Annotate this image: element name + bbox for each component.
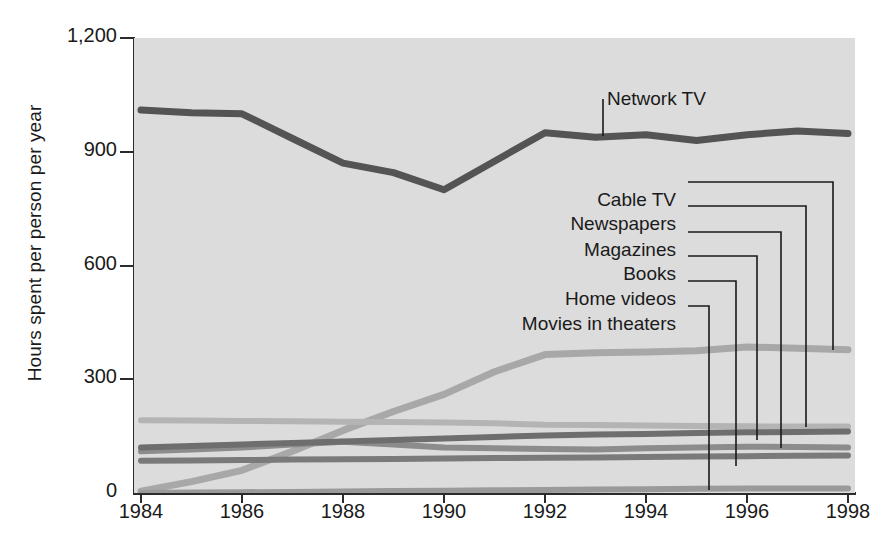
- x-tick-label-1998: 1998: [803, 500, 887, 523]
- y-tick-label-0: 0: [0, 479, 117, 502]
- series-line-network-tv: [141, 110, 848, 190]
- y-tick-label-1200: 1,200: [0, 24, 117, 47]
- annotation-label-network-tv: Network TV: [607, 88, 706, 110]
- line-chart: Hours spent per person per year 03006009…: [0, 0, 887, 541]
- annotation-label-books: Books: [623, 263, 676, 285]
- annotation-label-cable-tv: Cable TV: [597, 189, 676, 211]
- annotation-label-magazines: Magazines: [584, 239, 676, 261]
- x-tick-label-1994: 1994: [601, 500, 691, 523]
- series-line-newspapers: [141, 420, 848, 426]
- series-line-movies-in-theaters: [141, 488, 848, 493]
- x-tick-label-1986: 1986: [197, 500, 287, 523]
- x-tick-label-1990: 1990: [399, 500, 489, 523]
- annotation-label-newspapers: Newspapers: [570, 213, 676, 235]
- series-lines: [134, 38, 855, 493]
- annotation-label-home-videos: Home videos: [565, 288, 676, 310]
- x-tick-label-1996: 1996: [702, 500, 792, 523]
- y-axis-title: Hours spent per person per year: [24, 78, 46, 408]
- annotation-label-movies-in-theaters: Movies in theaters: [522, 313, 676, 335]
- plot-area: [134, 38, 855, 493]
- y-tick-label-900: 900: [0, 138, 117, 161]
- y-tick-label-300: 300: [0, 365, 117, 388]
- series-line-home-videos: [141, 456, 848, 461]
- x-tick-label-1988: 1988: [298, 500, 388, 523]
- x-tick-label-1992: 1992: [500, 500, 590, 523]
- y-tick-label-600: 600: [0, 252, 117, 275]
- x-tick-label-1984: 1984: [96, 500, 186, 523]
